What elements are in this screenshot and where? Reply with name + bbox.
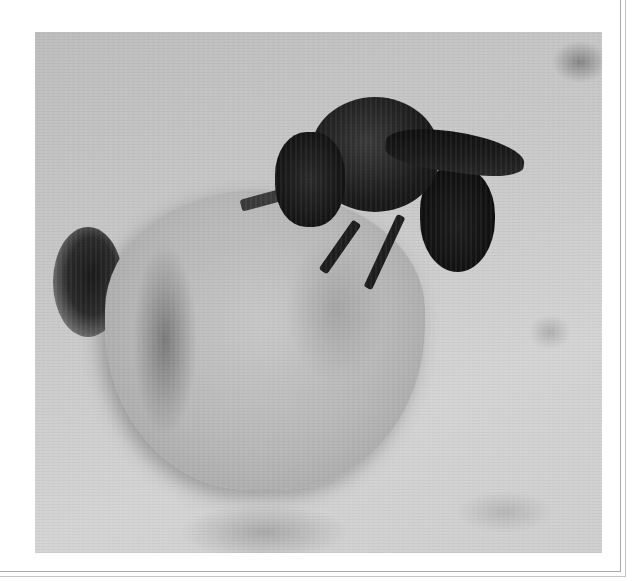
mud-nest-turret <box>105 190 425 490</box>
frame-line-bottom-outer <box>0 576 626 577</box>
bee-head <box>275 132 345 227</box>
frame-line-right-inner <box>620 0 621 572</box>
frame-line-right-outer <box>625 0 626 577</box>
photograph <box>35 32 602 553</box>
frame-line-bottom-inner <box>0 571 621 572</box>
